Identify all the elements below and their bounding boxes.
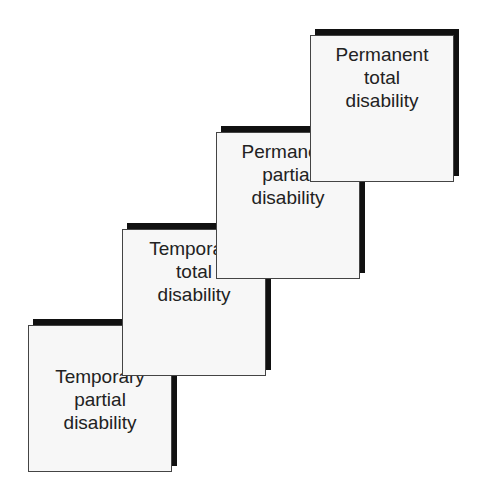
- step-label-line: Permanent: [310, 43, 454, 66]
- step-label-line: disability: [28, 411, 172, 434]
- step-label-line: total: [310, 66, 454, 89]
- step-permanent-total-disability: Permanent total disability: [310, 35, 454, 182]
- step-label-line: partial: [28, 388, 172, 411]
- step-label-line: disability: [310, 89, 454, 112]
- step-label-line: disability: [216, 186, 360, 209]
- step-label-line: disability: [122, 283, 266, 306]
- step-label: Permanent total disability: [310, 43, 454, 112]
